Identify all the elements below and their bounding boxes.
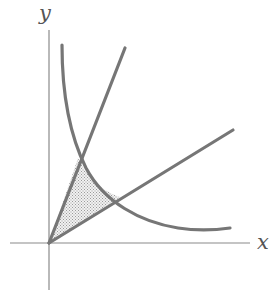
figure-canvas: y x	[0, 0, 279, 296]
shaded-region	[49, 158, 120, 243]
y-axis-label: y	[39, 3, 51, 24]
x-axis-label: x	[257, 232, 269, 253]
math-figure-svg	[0, 0, 279, 296]
